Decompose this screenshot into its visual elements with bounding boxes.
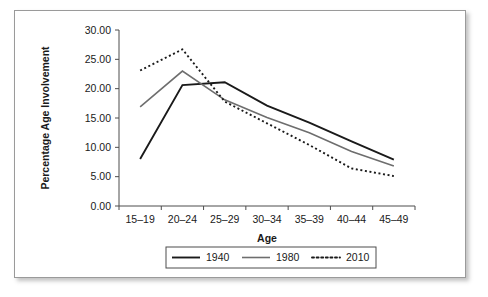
x-tick-label: 40–44 (337, 213, 366, 225)
y-tick-label: 10.00 (85, 141, 111, 153)
y-tick-label: 25.00 (85, 53, 111, 65)
line-chart: 0.005.0010.0015.0020.0025.0030.0015–1920… (15, 11, 467, 279)
y-tick-label: 30.00 (85, 24, 111, 36)
x-tick-label: 15–19 (126, 213, 155, 225)
x-tick-label: 30–34 (252, 213, 281, 225)
y-tick-label: 20.00 (85, 82, 111, 94)
series-line-2010 (140, 49, 394, 176)
y-tick-label: 15.00 (85, 112, 111, 124)
series-line-1940 (140, 82, 394, 159)
legend-label-1940: 1940 (206, 251, 230, 263)
x-tick-label: 25–29 (210, 213, 239, 225)
y-axis-title: Percentage Age Involvement (39, 46, 51, 190)
x-axis-title: Age (257, 232, 277, 244)
legend-label-2010: 2010 (346, 251, 370, 263)
chart-figure: 0.005.0010.0015.0020.0025.0030.0015–1920… (14, 10, 466, 278)
series-line-1980 (140, 71, 394, 166)
chart-plot-area: 0.005.0010.0015.0020.0025.0030.0015–1920… (15, 11, 467, 279)
x-tick-label: 45–49 (379, 213, 408, 225)
y-tick-label: 0.00 (91, 200, 112, 212)
x-tick-label: 35–39 (295, 213, 324, 225)
y-tick-label: 5.00 (91, 170, 112, 182)
x-tick-label: 20–24 (168, 213, 197, 225)
legend-label-1980: 1980 (276, 251, 300, 263)
